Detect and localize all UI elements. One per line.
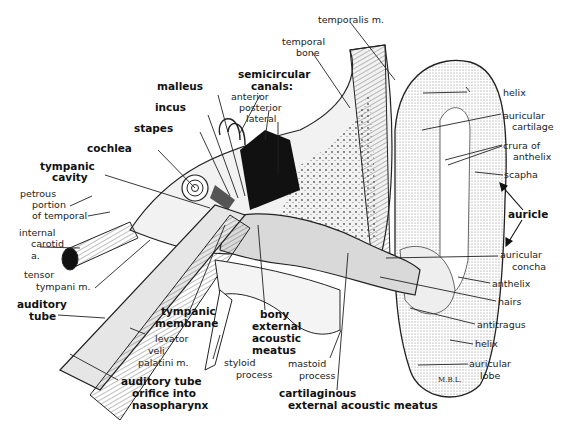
label-tensor-tympani-2: tympani m.: [36, 281, 90, 292]
label-helix-bottom: helix: [475, 338, 498, 349]
label-orifice-2: orifice into: [132, 387, 196, 399]
label-anthelix: anthelix: [492, 278, 530, 289]
label-posterior: posterior: [239, 102, 282, 113]
label-styloid-2: process: [236, 369, 273, 380]
label-auricular-cartilage-2: cartilage: [512, 121, 554, 132]
label-anterior: anterior: [231, 91, 269, 102]
label-hairs: hairs: [498, 296, 521, 307]
label-levator-1: levator: [155, 333, 188, 344]
label-levator-2: veli: [148, 345, 165, 356]
label-crura-anthelix-2: anthelix: [513, 151, 551, 162]
label-temporal-bone-2: bone: [296, 47, 320, 58]
label-internal-carotid-3: a.: [31, 250, 40, 261]
label-bony-meatus-2: external: [252, 320, 301, 332]
label-internal-carotid-1: internal: [19, 227, 55, 238]
label-mastoid-1: mastoid: [288, 358, 326, 369]
label-cartilaginous-meatus-2: external acoustic meatus: [288, 399, 438, 411]
label-tympanic-membrane-2: membrane: [155, 317, 218, 329]
label-semicircular-canals-1: semicircular: [238, 68, 310, 80]
label-lateral: lateral: [246, 113, 276, 124]
label-auricle: auricle: [508, 208, 548, 220]
label-orifice-3: nasopharynx: [132, 399, 208, 411]
label-orifice-1: auditory tube: [121, 375, 202, 387]
label-cartilaginous-meatus-1: cartilaginous: [279, 387, 356, 399]
label-helix-top: helix: [503, 87, 526, 98]
label-bony-meatus-4: meatus: [252, 344, 296, 356]
label-petrous-3: of temporal: [32, 210, 87, 221]
label-internal-carotid-2: carotid: [31, 238, 64, 249]
label-auricular-concha-1: auricular: [500, 249, 542, 260]
label-scapha: scapha: [504, 169, 538, 180]
label-petrous-1: petrous: [20, 188, 56, 199]
label-auditory-tube-2: tube: [29, 310, 56, 322]
label-malleus: malleus: [157, 80, 203, 92]
label-tympanic-membrane-1: tympanic: [161, 305, 216, 317]
label-levator-3: palatini m.: [138, 357, 189, 368]
label-bony-meatus-3: acoustic: [252, 332, 301, 344]
label-auditory-tube-1: auditory: [17, 298, 67, 310]
label-incus: incus: [155, 101, 186, 113]
label-temporalis-m: temporalis m.: [318, 14, 384, 25]
label-crura-anthelix-1: crura of: [503, 140, 540, 151]
label-stapes: stapes: [134, 122, 173, 134]
label-bony-meatus-1: bony: [260, 308, 289, 320]
label-auricular-lobe-1: auricular: [469, 358, 511, 369]
label-tympanic-cavity-2: cavity: [52, 171, 88, 183]
label-petrous-2: portion: [32, 199, 66, 210]
label-mastoid-2: process: [299, 370, 336, 381]
label-auricular-concha-2: concha: [512, 261, 546, 272]
label-temporal-bone-1: temporal: [282, 36, 325, 47]
label-tensor-tympani-1: tensor: [24, 269, 54, 280]
label-auricular-cartilage-1: auricular: [503, 110, 545, 121]
label-auricular-lobe-2: lobe: [480, 370, 500, 381]
artist-signature: M.B.L.: [438, 376, 462, 384]
label-styloid-1: styloid: [224, 357, 255, 368]
label-cochlea: cochlea: [87, 142, 132, 154]
label-antitragus: antitragus: [477, 319, 526, 330]
